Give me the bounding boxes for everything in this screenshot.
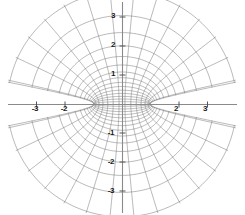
- grid-curve: [131, 0, 158, 104]
- grid-curve: [86, 0, 113, 104]
- grid-curve: [150, 82, 236, 104]
- grid-curve: [16, 58, 96, 104]
- grid-curve: [8, 104, 94, 126]
- x-tick-label-2: 2: [174, 105, 178, 113]
- grid-curve: [148, 58, 228, 104]
- grid-curve: [8, 82, 94, 104]
- grid-curve: [16, 104, 96, 150]
- y-tick-label-5: -3: [108, 187, 115, 195]
- grid-curve: [64, 104, 108, 203]
- y-tick-label-2: 1: [111, 70, 115, 78]
- grid-curve: [150, 104, 236, 126]
- grid-curve: [136, 5, 180, 104]
- grid-curve: [64, 5, 108, 104]
- grid-curve: [136, 104, 180, 203]
- x-tick-label-1: -2: [61, 105, 68, 113]
- grid-curve: [148, 104, 228, 150]
- x-tick-label-3: 3: [203, 105, 207, 113]
- y-tick-label-3: -1: [108, 129, 115, 137]
- y-tick-label-1: 2: [111, 41, 115, 49]
- y-tick-label-0: 3: [111, 12, 115, 20]
- x-tick-label-0: -3: [32, 105, 39, 113]
- y-tick-label-4: -2: [108, 158, 115, 166]
- conformal-grid-figure: -3-223 321-1-2-3: [0, 0, 245, 215]
